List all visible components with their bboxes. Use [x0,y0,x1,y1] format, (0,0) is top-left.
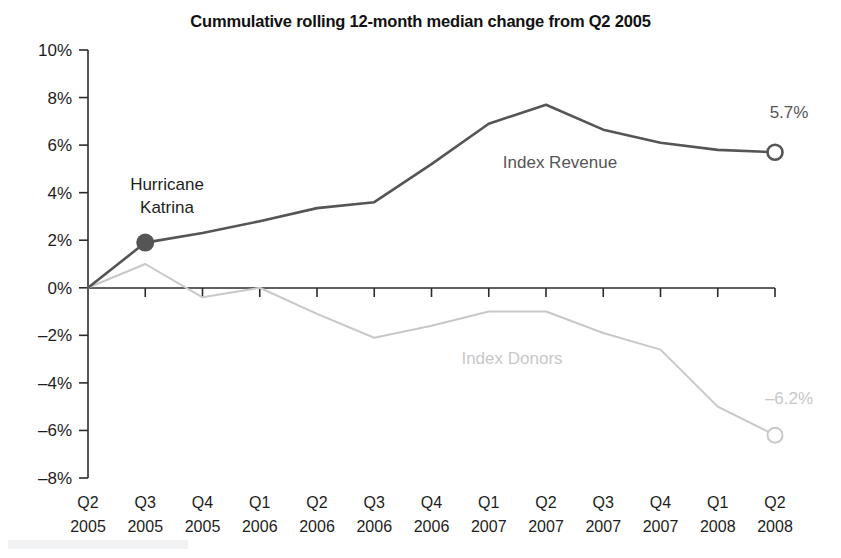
y-axis-ticks [79,50,88,478]
x-axis-tick-label-year: 2006 [356,518,392,535]
series-line [88,105,775,288]
chart-page: Cummulative rolling 12-month median chan… [0,0,841,558]
series-end-marker-open-circle [768,428,783,443]
x-axis-tick-label-quarter: Q4 [421,494,442,511]
series-index-revenue [88,105,783,288]
y-axis-tick-label: –4% [38,374,72,393]
x-axis-tick-label-quarter: Q2 [764,494,785,511]
x-axis-tick-label-quarter: Q4 [192,494,213,511]
x-axis-tick-label-quarter: Q1 [249,494,270,511]
y-axis-tick-labels: 10%8%6%4%2%0%–2%–4%–6%–8% [38,41,72,488]
y-axis-tick-label: –8% [38,469,72,488]
x-axis-tick-label-year: 2005 [70,518,106,535]
y-axis-tick-label: –2% [38,326,72,345]
x-axis-tick-label-year: 2007 [528,518,564,535]
series-label-index-revenue: Index Revenue [503,153,617,172]
end-label-index-revenue: 5.7% [770,103,809,122]
end-label-index-donors: –6.2% [765,389,813,408]
x-axis-tick-label-year: 2006 [242,518,278,535]
x-axis-tick-label-year: 2006 [414,518,450,535]
x-axis-tick-label-year: 2007 [471,518,507,535]
y-axis-tick-label: 0% [47,279,72,298]
x-axis-tick-label-year: 2005 [127,518,163,535]
y-axis-tick-label: 10% [38,41,72,60]
watermark [8,540,188,549]
x-axis-tick-label-year: 2007 [585,518,621,535]
annotation-line-2: Katrina [140,198,194,217]
y-axis-tick-label: 6% [47,136,72,155]
x-axis-tick-label-quarter: Q3 [364,494,385,511]
x-axis-tick-label-year: 2007 [643,518,679,535]
x-axis-tick-label-quarter: Q1 [478,494,499,511]
series-label-index-donors: Index Donors [461,349,562,368]
x-axis-tick-label-quarter: Q2 [77,494,98,511]
y-axis-tick-label: 4% [47,184,72,203]
x-axis-tick-labels: Q22005Q32005Q42005Q12006Q22006Q32006Q420… [70,494,793,535]
annotation-line-1: Hurricane [130,175,204,194]
x-axis-tick-label-year: 2005 [185,518,221,535]
x-axis-tick-label-quarter: Q2 [306,494,327,511]
x-axis-tick-label-quarter: Q4 [650,494,671,511]
line-chart-plot: 10%8%6%4%2%0%–2%–4%–6%–8% Q22005Q32005Q4… [0,0,841,558]
x-axis-tick-label-quarter: Q3 [135,494,156,511]
x-axis-tick-label-year: 2008 [757,518,793,535]
x-axis-ticks [145,288,775,297]
x-axis-tick-label-quarter: Q1 [707,494,728,511]
series-index-donors [88,264,783,443]
series-end-marker-open-circle [768,145,783,160]
y-axis-tick-label: 8% [47,89,72,108]
x-axis-tick-label-year: 2008 [700,518,736,535]
x-axis-tick-label-quarter: Q2 [535,494,556,511]
x-axis-tick-label-year: 2006 [299,518,335,535]
axes-group [88,50,775,478]
annotation-marker-filled-circle [136,234,154,252]
y-axis-tick-label: 2% [47,231,72,250]
x-axis-tick-label-quarter: Q3 [593,494,614,511]
y-axis-tick-label: –6% [38,421,72,440]
